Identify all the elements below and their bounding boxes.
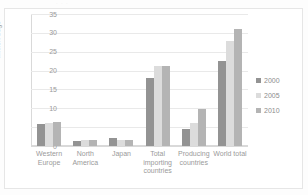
legend: 200020052010	[256, 77, 280, 122]
bar	[226, 41, 234, 146]
bar-group	[103, 14, 139, 146]
legend-label: 2000	[264, 77, 280, 84]
bar	[154, 66, 162, 146]
bar-group	[67, 14, 103, 146]
x-tick-label: Total importing countries	[140, 150, 176, 176]
legend-swatch	[256, 78, 261, 83]
legend-label: 2010	[264, 107, 280, 114]
x-tick-label: Producing countries	[176, 150, 212, 176]
y-axis-label: Million bags	[0, 21, 1, 58]
bar	[190, 123, 198, 146]
x-tick-label: Western Europe	[31, 150, 67, 176]
bar-group	[212, 14, 248, 146]
bar-group	[31, 14, 67, 146]
legend-swatch	[256, 108, 261, 113]
bar	[45, 123, 53, 146]
bar	[162, 66, 170, 146]
bar	[109, 138, 117, 146]
bar	[146, 78, 154, 146]
bar	[218, 61, 226, 146]
bar	[117, 140, 125, 146]
bar	[81, 140, 89, 146]
legend-item[interactable]: 2010	[256, 107, 280, 114]
bar-group	[176, 14, 212, 146]
bar-group	[140, 14, 176, 146]
chart-title-strip: · · ·	[56, 1, 102, 6]
bar	[125, 140, 133, 146]
bar	[37, 124, 45, 146]
legend-item[interactable]: 2000	[256, 77, 280, 84]
legend-swatch	[256, 93, 261, 98]
bar-chart: · · · 35302520151050 Million bags Wester…	[0, 0, 308, 195]
x-axis-labels: Western EuropeNorth AmericaJapanTotal im…	[31, 150, 248, 176]
x-tick-label: North America	[67, 150, 103, 176]
bar-groups	[31, 14, 248, 146]
bar	[182, 129, 190, 146]
bar	[53, 122, 61, 146]
gridline	[31, 146, 248, 147]
bar	[198, 109, 206, 146]
bar	[73, 141, 81, 146]
legend-item[interactable]: 2005	[256, 92, 280, 99]
x-tick-label: World total	[212, 150, 248, 176]
legend-label: 2005	[264, 92, 280, 99]
bar	[234, 29, 242, 146]
bar	[89, 140, 97, 146]
x-tick-label: Japan	[103, 150, 139, 176]
